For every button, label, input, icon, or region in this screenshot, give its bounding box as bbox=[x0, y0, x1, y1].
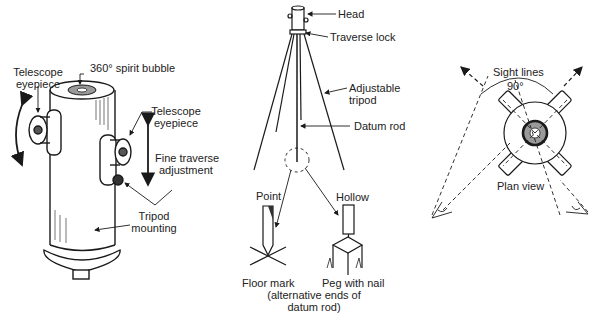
sight-lines-label: Sight lines bbox=[493, 66, 544, 78]
label-line: eyepiece bbox=[10, 78, 66, 90]
floor-mark-label: Floor mark bbox=[242, 277, 295, 289]
label-line: tripod bbox=[349, 94, 400, 106]
label-line: Telescope bbox=[148, 105, 204, 117]
fine-traverse-label: Fine traverse adjustment bbox=[155, 152, 219, 176]
alternative-ends-caption: (alternative ends of datum rod) bbox=[254, 289, 374, 313]
head-label: Head bbox=[338, 8, 364, 20]
label-line: Fine traverse bbox=[155, 152, 219, 164]
plan-view-label: Plan view bbox=[497, 180, 544, 192]
telescope-eyepiece-right-label: Telescope eyepiece bbox=[148, 105, 204, 129]
label-line: Tripod bbox=[130, 210, 178, 222]
point-label: Point bbox=[256, 190, 281, 202]
diagram-artwork bbox=[0, 0, 596, 323]
spirit-bubble-label: 360° spirit bubble bbox=[90, 62, 175, 74]
label-line: (alternative ends of bbox=[254, 289, 374, 301]
tripod-mounting-label: Tripod mounting bbox=[130, 210, 178, 234]
label-line: eyepiece bbox=[148, 117, 204, 129]
hollow-label: Hollow bbox=[336, 191, 369, 203]
adjustable-tripod-label: Adjustable tripod bbox=[349, 82, 400, 106]
telescope-eyepiece-left-label: Telescope eyepiece bbox=[10, 66, 66, 90]
peg-with-nail-label: Peg with nail bbox=[322, 277, 384, 289]
angle-label: 90° bbox=[507, 80, 524, 92]
label-line: adjustment bbox=[155, 164, 219, 176]
traverse-lock-label: Traverse lock bbox=[330, 31, 396, 43]
label-line: datum rod) bbox=[254, 301, 374, 313]
label-line: Telescope bbox=[10, 66, 66, 78]
tripod-drawing bbox=[250, 6, 362, 275]
datum-rod-label: Datum rod bbox=[354, 120, 405, 132]
label-line: Adjustable bbox=[349, 82, 400, 94]
label-line: mounting bbox=[130, 222, 178, 234]
